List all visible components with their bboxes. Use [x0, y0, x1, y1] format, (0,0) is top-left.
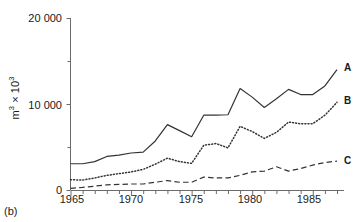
plot-area [0, 0, 355, 222]
figure-caption: (b) [4, 205, 17, 217]
series-label-b: B [344, 95, 351, 106]
series-line-b [71, 102, 338, 180]
series-line-a [71, 70, 338, 164]
series-label-a: A [344, 62, 351, 73]
series-label-c: C [344, 155, 351, 166]
series-paths [71, 70, 338, 189]
x-axis-ticks [71, 191, 338, 196]
axis-lines [71, 18, 345, 191]
figure-panel-b: m3 × 103 20 000 10 000 0 1965 1970 1975 … [0, 0, 355, 222]
y-axis-ticks [67, 19, 71, 191]
